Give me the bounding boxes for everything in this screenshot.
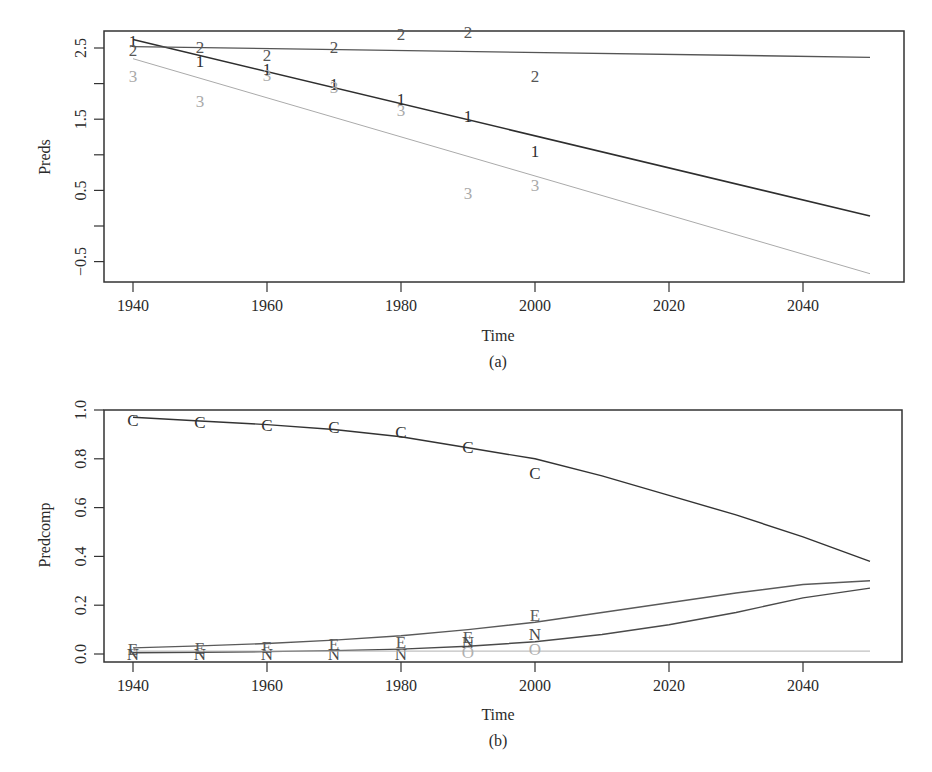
figure: −0.50.51.52.5 194019601980200020202040 1…	[0, 0, 932, 772]
x-tick-label: 1980	[385, 297, 417, 314]
chart-b-caption: (b)	[489, 732, 508, 750]
series-point-3: 3	[263, 66, 272, 85]
chart-b-plot-frame	[104, 410, 902, 662]
x-tick-label: 2000	[519, 297, 551, 314]
y-tick-label: −0.5	[72, 247, 89, 276]
series-point-3: 3	[129, 67, 138, 86]
series-point-C: C	[395, 423, 406, 442]
x-tick-label: 1960	[251, 297, 283, 314]
series-point-C: C	[127, 411, 138, 430]
series-point-O: O	[462, 643, 474, 662]
series-point-C: C	[462, 438, 473, 457]
chart-b-xlabel: Time	[481, 706, 514, 723]
series-point-C: C	[328, 418, 339, 437]
x-tick-label: 1940	[117, 677, 149, 694]
series-point-2: 2	[330, 38, 339, 57]
x-tick-label: 2000	[519, 677, 551, 694]
y-tick-label: 0.8	[72, 449, 89, 469]
series-point-2: 2	[263, 46, 272, 65]
x-tick-label: 1960	[251, 677, 283, 694]
series-point-3: 3	[196, 92, 205, 111]
chart-a: −0.50.51.52.5 194019601980200020202040 1…	[36, 23, 904, 371]
x-tick-label: 2020	[653, 677, 685, 694]
series-line-3	[133, 59, 870, 274]
y-tick-label: 1.0	[72, 400, 89, 420]
series-point-3: 3	[531, 176, 540, 195]
series-line-2	[133, 47, 870, 58]
chart-b-y-axis: 0.00.20.40.60.81.0	[72, 400, 104, 664]
series-point-2: 2	[129, 41, 138, 60]
series-line-E	[133, 581, 870, 648]
x-tick-label: 1940	[117, 297, 149, 314]
series-point-3: 3	[464, 184, 473, 203]
chart-a-x-axis: 194019601980200020202040	[117, 282, 819, 314]
series-point-C: C	[529, 464, 540, 483]
series-point-2: 2	[531, 67, 540, 86]
series-point-E: E	[530, 606, 540, 625]
y-tick-label: 1.5	[72, 109, 89, 129]
chart-b: 0.00.20.40.60.81.0 194019601980200020202…	[36, 400, 902, 750]
x-tick-label: 2040	[787, 297, 819, 314]
series-point-C: C	[261, 416, 272, 435]
series-point-2: 2	[397, 25, 406, 44]
x-tick-label: 2040	[787, 677, 819, 694]
series-point-2: 2	[196, 38, 205, 57]
series-point-3: 3	[397, 101, 406, 120]
series-point-N: N	[127, 645, 139, 664]
series-point-C: C	[194, 413, 205, 432]
series-point-3: 3	[330, 78, 339, 97]
chart-a-xlabel: Time	[481, 327, 514, 344]
chart-a-plot-frame	[104, 31, 904, 282]
y-tick-label: 2.5	[72, 38, 89, 58]
series-point-N: N	[261, 645, 273, 664]
series-line-1	[133, 40, 870, 217]
series-point-1: 1	[531, 142, 540, 161]
y-tick-label: 0.2	[72, 595, 89, 615]
series-point-N: N	[328, 645, 340, 664]
chart-a-series: 111111122222223333333	[129, 23, 870, 273]
series-point-1: 1	[464, 107, 473, 126]
series-point-N: N	[194, 645, 206, 664]
y-tick-label: 0.4	[72, 546, 89, 566]
series-line-N	[133, 588, 870, 653]
chart-a-y-axis: −0.50.51.52.5	[72, 38, 104, 276]
x-tick-label: 2020	[653, 297, 685, 314]
series-point-N: N	[395, 645, 407, 664]
chart-b-x-axis: 194019601980200020202040	[117, 662, 819, 694]
x-tick-label: 1980	[385, 677, 417, 694]
y-tick-label: 0.0	[72, 644, 89, 664]
chart-b-series: CCCCCCCEEEEEEENNNNNNNOO	[127, 411, 870, 664]
chart-a-ylabel: Preds	[36, 139, 53, 175]
chart-a-caption: (a)	[489, 353, 507, 371]
series-point-O: O	[529, 640, 541, 659]
series-line-C	[133, 417, 870, 561]
chart-b-ylabel: Predcomp	[36, 503, 54, 568]
y-tick-label: 0.6	[72, 498, 89, 518]
series-point-2: 2	[464, 23, 473, 42]
y-tick-label: 0.5	[72, 180, 89, 200]
